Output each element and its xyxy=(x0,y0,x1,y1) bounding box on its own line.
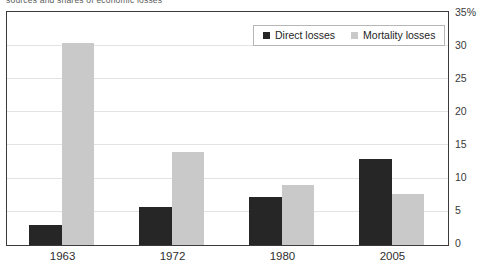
x-tick-label-2005: 2005 xyxy=(380,250,406,262)
bar-1980-direct-losses xyxy=(249,197,282,245)
bar-1963-direct-losses xyxy=(29,225,62,245)
y-tick-label-20: 20 xyxy=(455,106,467,117)
chart-legend: Direct losses Mortality losses xyxy=(253,25,445,46)
y-tick-label-5: 5 xyxy=(455,205,461,216)
y-axis: 05101520253035% xyxy=(455,0,489,273)
bar-1972-direct-losses xyxy=(139,207,172,245)
legend-item-direct-losses: Direct losses xyxy=(263,30,335,41)
y-tick-label-15: 15 xyxy=(455,139,467,150)
y-tick-label-25: 25 xyxy=(455,73,467,84)
bar-1972-mortality-losses xyxy=(172,152,205,245)
bar-2005-direct-losses xyxy=(359,159,392,245)
bars-layer xyxy=(7,12,448,245)
legend-label-direct-losses: Direct losses xyxy=(275,30,335,41)
plot-area xyxy=(6,11,449,246)
x-tick-label-1963: 1963 xyxy=(50,250,76,262)
x-tick-label-1972: 1972 xyxy=(160,250,186,262)
light-square-icon xyxy=(351,32,358,39)
dark-square-icon xyxy=(263,32,270,39)
bar-1980-mortality-losses xyxy=(282,185,315,245)
y-tick-label-30: 30 xyxy=(455,40,467,51)
legend-label-mortality-losses: Mortality losses xyxy=(363,30,435,41)
bar-2005-mortality-losses xyxy=(392,194,425,245)
y-tick-label-10: 10 xyxy=(455,172,467,183)
x-tick-label-1980: 1980 xyxy=(270,250,296,262)
legend-item-mortality-losses: Mortality losses xyxy=(351,30,435,41)
chart-caption-cropped: sources and shares of economic losses xyxy=(6,0,306,5)
bar-chart: sources and shares of economic losses 05… xyxy=(0,0,489,273)
bar-1963-mortality-losses xyxy=(62,43,95,245)
x-axis: 1963197219802005 xyxy=(6,250,449,270)
y-tick-label-0: 0 xyxy=(455,238,461,249)
y-tick-label-35: 35% xyxy=(455,7,476,18)
